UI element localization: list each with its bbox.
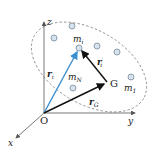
com-diagram: z y x O G mi m1 mN ri rG r′i xyxy=(0,0,151,153)
vector-r-i-prime xyxy=(82,51,107,82)
y-axis-label: y xyxy=(127,116,134,126)
diagram-canvas: z y x O G mi m1 mN ri rG r′i xyxy=(0,0,151,153)
particle xyxy=(114,49,120,55)
particle-m1 xyxy=(128,74,134,80)
z-axis-label: z xyxy=(46,17,52,27)
rigid-body-outline xyxy=(16,3,151,130)
center-of-mass-label: G xyxy=(110,78,118,89)
r-G-label: rG xyxy=(89,97,99,108)
particle xyxy=(69,23,75,29)
particle-mi xyxy=(76,45,82,51)
r-i-prime-label: r′i xyxy=(97,56,104,68)
particle-mN xyxy=(70,85,76,91)
r-i-label: ri xyxy=(47,69,54,80)
mi-label: mi xyxy=(73,34,84,45)
x-axis-label: x xyxy=(8,138,13,148)
particles xyxy=(51,23,134,91)
vector-r-i xyxy=(44,52,77,113)
origin-label: O xyxy=(40,115,48,126)
particle xyxy=(51,35,57,41)
m1-label: m1 xyxy=(124,83,136,94)
particle xyxy=(94,43,100,49)
mN-label: mN xyxy=(68,72,83,83)
